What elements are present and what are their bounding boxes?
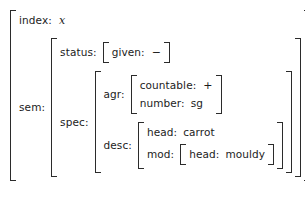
attr-head: head: xyxy=(147,126,183,139)
avm-figure: index: x sem: status: xyxy=(0,0,305,213)
attr-mod-head: head: xyxy=(189,148,225,161)
bracket-right-mod xyxy=(268,144,274,165)
row-index: index: x xyxy=(19,13,301,28)
row-mod: mod: xyxy=(147,143,274,166)
avm-sem-body: status: given: − xyxy=(60,38,292,177)
bracket-left-outer xyxy=(10,10,16,181)
attr-number: number: xyxy=(140,97,191,110)
value-number: sg xyxy=(191,97,203,110)
avm-status-body: given: − xyxy=(112,42,161,63)
value-head: carrot xyxy=(183,126,215,139)
value-sem: status: given: − xyxy=(51,38,301,177)
bracket-left-spec xyxy=(95,71,101,173)
row-sem: sem: status: xyxy=(19,37,301,178)
spacer xyxy=(19,28,301,37)
avm-outer: index: x sem: status: xyxy=(10,10,305,181)
row-agr: agr: countable: xyxy=(104,74,284,115)
value-desc: head: carrot mod: xyxy=(138,122,283,169)
attr-index: index: xyxy=(19,14,58,27)
avm-status: given: − xyxy=(103,42,170,63)
row-head: head: carrot xyxy=(147,125,274,140)
avm-outer-body: index: x sem: status: xyxy=(19,10,301,181)
row-number: number: sg xyxy=(140,96,213,111)
bracket-right-status xyxy=(164,42,170,63)
attr-agr: agr: xyxy=(104,88,131,101)
avm-desc: head: carrot mod: xyxy=(138,122,283,169)
value-given: − xyxy=(151,46,161,59)
avm-agr-body: countable: + xyxy=(140,75,213,114)
bracket-right-spec xyxy=(286,71,292,173)
bracket-right-outer xyxy=(304,10,305,181)
value-status: given: − xyxy=(103,42,170,63)
avm-sem: status: given: − xyxy=(51,38,301,177)
row-status: status: given: − xyxy=(60,41,292,64)
attr-countable: countable: xyxy=(140,79,203,92)
attr-given: given: xyxy=(112,46,151,59)
value-agr: countable: + xyxy=(131,75,222,114)
avm-mod: head: mouldy xyxy=(180,144,274,165)
avm-desc-body: head: carrot mod: xyxy=(147,122,274,169)
value-spec: agr: countable: xyxy=(95,71,293,173)
row-mod-head: head: mouldy xyxy=(189,147,265,162)
bracket-left-sem xyxy=(51,38,57,177)
attr-desc: desc: xyxy=(104,139,138,152)
value-countable: + xyxy=(202,79,212,92)
attr-sem: sem: xyxy=(19,101,51,114)
value-mod: head: mouldy xyxy=(180,144,274,165)
row-given: given: − xyxy=(112,45,161,60)
row-countable: countable: + xyxy=(140,78,213,93)
bracket-right-agr xyxy=(216,75,222,114)
row-spec: spec: agr: xyxy=(60,70,292,174)
attr-spec: spec: xyxy=(60,116,94,129)
attr-mod: mod: xyxy=(147,148,180,161)
bracket-right-desc xyxy=(277,122,283,169)
bracket-left-status xyxy=(103,42,109,63)
avm-mod-body: head: mouldy xyxy=(189,144,265,165)
bracket-left-mod xyxy=(180,144,186,165)
value-index: x xyxy=(58,14,65,27)
avm-spec-body: agr: countable: xyxy=(104,71,284,173)
value-mod-head: mouldy xyxy=(225,148,265,161)
row-desc: desc: head: xyxy=(104,121,284,170)
bracket-left-agr xyxy=(131,75,137,114)
avm-agr: countable: + xyxy=(131,75,222,114)
attr-status: status: xyxy=(60,46,103,59)
avm-spec: agr: countable: xyxy=(95,71,293,173)
bracket-left-desc xyxy=(138,122,144,169)
bracket-right-sem xyxy=(295,38,301,177)
